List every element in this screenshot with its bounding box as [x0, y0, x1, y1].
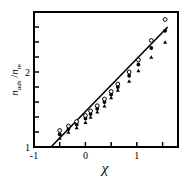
y-axis-label: nads /nm: [8, 64, 23, 96]
filled-circle-marker: [137, 63, 141, 67]
svg-text:nads /nm: nads /nm: [8, 64, 23, 96]
filled-circle-marker: [163, 29, 167, 33]
open-circle-marker: [109, 90, 113, 94]
open-circle-marker: [149, 39, 153, 43]
x-tick-label: 0: [83, 150, 88, 161]
x-axis-label: χ: [100, 160, 109, 176]
y-label-sub2: m: [15, 64, 23, 69]
triangle-marker: [83, 120, 87, 124]
filled-circle-marker: [149, 46, 153, 50]
filled-circle-marker: [58, 132, 62, 136]
open-circle-marker: [58, 129, 62, 133]
y-axis-tick-labels: 12: [25, 67, 30, 153]
filled-circle-marker: [127, 74, 131, 78]
y-label-sub1: ads: [15, 80, 23, 90]
open-circle-marker: [75, 120, 79, 124]
chart: -101 12 χ nads /nm: [0, 0, 189, 182]
x-tick-label: 1: [134, 150, 139, 161]
open-circle-marker: [163, 18, 167, 22]
open-circle-marker: [127, 70, 131, 74]
open-circle-marker: [103, 97, 107, 101]
open-circle-marker: [67, 124, 71, 128]
open-circle-marker: [116, 82, 120, 86]
triangle-marker: [136, 69, 140, 73]
triangle-marker: [149, 55, 153, 59]
y-tick-label: 2: [25, 67, 30, 78]
y-tick-label: 1: [25, 142, 30, 153]
triangle-marker: [102, 104, 106, 108]
triangle-marker: [127, 79, 131, 83]
x-tick-label: -1: [30, 150, 38, 161]
open-circle-marker: [84, 114, 88, 118]
open-circle-marker: [137, 58, 141, 62]
data-points: [58, 18, 167, 140]
plot-frame: [34, 12, 178, 147]
triangle-marker: [163, 40, 167, 44]
open-circle-marker: [89, 109, 93, 113]
x-axis-tick-labels: -101: [30, 150, 140, 161]
open-circle-marker: [95, 104, 99, 108]
